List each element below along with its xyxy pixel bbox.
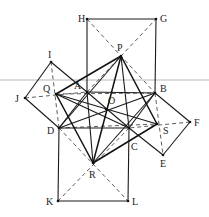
- point-f: [189, 121, 192, 124]
- point-q: [55, 93, 58, 96]
- point-b: [154, 92, 157, 95]
- geometry-diagram: HGPIABJQODCSFERKL: [0, 0, 209, 217]
- label-q: Q: [43, 83, 51, 94]
- dashed-segment-dl: [59, 128, 128, 201]
- segment-ab: [87, 92, 155, 93]
- label-j: J: [15, 93, 19, 104]
- label-e: E: [160, 158, 166, 169]
- label-p: P: [117, 42, 123, 53]
- label-f: F: [194, 117, 200, 128]
- segment-cl: [128, 128, 129, 201]
- label-a: A: [74, 80, 82, 91]
- segment-qc: [56, 94, 129, 128]
- label-h: H: [78, 13, 85, 24]
- point-d: [58, 127, 61, 130]
- point-s: [156, 123, 159, 126]
- label-d: D: [47, 125, 54, 136]
- point-r: [92, 162, 95, 165]
- point-e: [162, 154, 165, 157]
- point-h: [86, 18, 89, 21]
- point-g: [155, 18, 158, 21]
- label-o: O: [108, 95, 115, 106]
- segment-ia: [51, 62, 87, 92]
- label-b: B: [160, 83, 167, 94]
- label-i: I: [48, 49, 51, 60]
- label-k: K: [46, 196, 54, 207]
- point-i: [50, 61, 53, 64]
- segment-gb: [155, 19, 156, 93]
- segment-rs: [93, 124, 157, 163]
- segment-dj: [25, 98, 59, 128]
- label-s: S: [163, 125, 169, 136]
- label-l: L: [132, 196, 138, 207]
- label-r: R: [89, 169, 96, 180]
- point-l: [127, 200, 130, 203]
- point-c: [128, 127, 131, 130]
- point-p: [120, 55, 123, 58]
- point-k: [57, 200, 60, 203]
- label-c: C: [131, 141, 138, 152]
- label-g: G: [160, 13, 167, 24]
- segment-kd: [58, 128, 59, 201]
- segment-bf: [155, 93, 190, 122]
- point-j: [24, 97, 27, 100]
- point-o: [105, 108, 108, 111]
- point-a: [86, 91, 89, 94]
